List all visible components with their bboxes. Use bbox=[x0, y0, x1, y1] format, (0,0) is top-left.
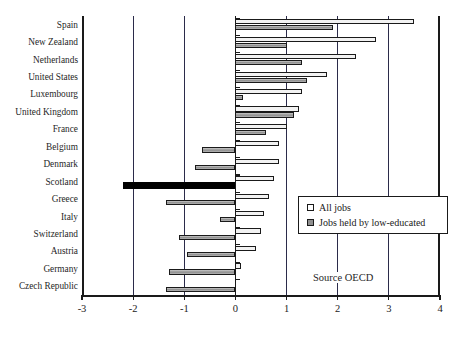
category-label-netherlands: Netherlands bbox=[33, 55, 78, 65]
bar-denmark-low-educated bbox=[195, 165, 236, 170]
bar-greece-low-educated bbox=[166, 200, 235, 205]
bar-austria-low-educated bbox=[187, 252, 236, 257]
bar-france-low-educated bbox=[235, 130, 266, 135]
x-tick-label-4: 4 bbox=[425, 303, 455, 314]
row-tick-czech-republic bbox=[236, 279, 240, 280]
bar-luxembourg-all-jobs bbox=[235, 89, 301, 94]
bar-united-states-low-educated bbox=[235, 78, 307, 83]
bar-new-zealand-low-educated bbox=[235, 43, 286, 48]
x-tick-0 bbox=[235, 295, 236, 300]
x-tick-label-1: 1 bbox=[272, 303, 302, 314]
x-tick--3 bbox=[81, 295, 82, 300]
category-label-austria: Austria bbox=[51, 246, 78, 256]
legend-label-low-educated: Jobs held by low-educated bbox=[319, 217, 425, 228]
y-axis-line bbox=[82, 16, 84, 296]
source-note: Source OECD bbox=[311, 272, 375, 283]
bar-greece-all-jobs bbox=[235, 194, 268, 199]
bar-denmark-all-jobs bbox=[235, 159, 278, 164]
bar-belgium-low-educated bbox=[202, 147, 235, 152]
bar-new-zealand-all-jobs bbox=[235, 37, 376, 42]
category-label-scotland: Scotland bbox=[45, 177, 78, 187]
chart-container: -3-2-101234 SpainNew ZealandNetherlandsU… bbox=[0, 0, 460, 340]
x-axis-line bbox=[82, 295, 440, 297]
bar-switzerland-low-educated bbox=[179, 235, 235, 240]
x-tick-label--2: -2 bbox=[118, 303, 148, 314]
x-tick-label-0: 0 bbox=[220, 303, 250, 314]
legend-item-low-educated: Jobs held by low-educated bbox=[307, 217, 425, 228]
bar-united-states-all-jobs bbox=[235, 72, 327, 77]
category-label-denmark: Denmark bbox=[43, 159, 78, 169]
bar-italy-low-educated bbox=[220, 217, 235, 222]
x-tick-4 bbox=[439, 295, 440, 300]
bar-belgium-all-jobs bbox=[235, 141, 278, 146]
category-label-czech-republic: Czech Republic bbox=[19, 281, 78, 291]
category-label-luxembourg: Luxembourg bbox=[30, 89, 78, 99]
bar-france-all-jobs bbox=[235, 124, 286, 129]
bar-spain-all-jobs bbox=[235, 19, 414, 24]
gridline--2 bbox=[133, 16, 134, 296]
x-tick-3 bbox=[388, 295, 389, 300]
legend-swatch-icon-all-jobs bbox=[307, 204, 314, 211]
category-label-greece: Greece bbox=[52, 194, 78, 204]
category-label-spain: Spain bbox=[57, 20, 78, 30]
bar-germany-all-jobs bbox=[235, 263, 240, 268]
x-tick--2 bbox=[133, 295, 134, 300]
bar-united-kingdom-low-educated bbox=[235, 112, 294, 117]
x-tick-1 bbox=[286, 295, 287, 300]
legend-swatch-icon-low-educated bbox=[307, 219, 314, 226]
x-tick-label-3: 3 bbox=[374, 303, 404, 314]
bar-germany-low-educated bbox=[169, 269, 235, 274]
bar-united-kingdom-all-jobs bbox=[235, 106, 299, 111]
bar-scotland-all-jobs bbox=[235, 176, 273, 181]
bar-italy-all-jobs bbox=[235, 211, 263, 216]
gridline--1 bbox=[184, 16, 185, 296]
bar-netherlands-low-educated bbox=[235, 60, 301, 65]
bar-czech-republic-low-educated bbox=[166, 287, 235, 292]
category-label-germany: Germany bbox=[43, 264, 78, 274]
legend: All jobs Jobs held by low-educated bbox=[298, 196, 448, 234]
bar-austria-all-jobs bbox=[235, 246, 255, 251]
category-label-switzerland: Switzerland bbox=[34, 229, 78, 239]
x-tick-2 bbox=[337, 295, 338, 300]
legend-item-all-jobs: All jobs bbox=[307, 202, 351, 213]
category-label-belgium: Belgium bbox=[46, 142, 78, 152]
x-tick--1 bbox=[184, 295, 185, 300]
category-label-united-kingdom: United Kingdom bbox=[15, 107, 78, 117]
category-label-new-zealand: New Zealand bbox=[28, 37, 78, 47]
category-label-united-states: United States bbox=[28, 72, 78, 82]
x-tick-label-2: 2 bbox=[323, 303, 353, 314]
x-tick-label--3: -3 bbox=[67, 303, 97, 314]
bar-switzerland-all-jobs bbox=[235, 228, 261, 233]
bar-netherlands-all-jobs bbox=[235, 54, 355, 59]
bar-luxembourg-low-educated bbox=[235, 95, 243, 100]
bar-scotland-low-educated bbox=[123, 182, 236, 189]
category-label-italy: Italy bbox=[61, 212, 78, 222]
gridline-3 bbox=[388, 16, 389, 296]
bar-spain-low-educated bbox=[235, 25, 332, 30]
category-label-france: France bbox=[53, 124, 78, 134]
legend-label-all-jobs: All jobs bbox=[319, 202, 351, 213]
x-tick-label--1: -1 bbox=[169, 303, 199, 314]
plot-right-border bbox=[438, 16, 440, 296]
